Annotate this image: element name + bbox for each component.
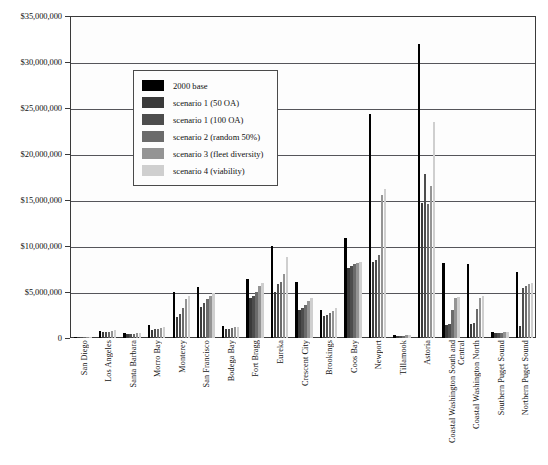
- chart-legend: 2000 basescenario 1 (50 OA)scenario 1 (1…: [133, 70, 278, 186]
- y-tick-mark: [65, 338, 70, 339]
- x-tick-label: Astoria: [423, 340, 432, 365]
- y-tick-label: $20,000,000: [21, 150, 62, 159]
- bar: [335, 308, 337, 338]
- legend-item: scenario 1 (50 OA): [142, 94, 269, 111]
- bar: [212, 293, 214, 338]
- bar-group: [442, 16, 460, 338]
- x-tick-label: San Diego: [80, 340, 89, 375]
- bar: [506, 332, 508, 338]
- legend-swatch: [142, 131, 164, 142]
- bar: [163, 327, 165, 339]
- legend-label: scenario 4 (viability): [173, 166, 245, 176]
- bar: [433, 122, 435, 338]
- x-tick-label: Tillamook: [399, 340, 408, 375]
- legend-swatch: [142, 114, 164, 125]
- x-tick-label: Crescent City: [301, 340, 310, 386]
- y-tick-label: $30,000,000: [21, 58, 62, 67]
- x-tick-label: Eureka: [276, 340, 285, 364]
- bar: [384, 189, 386, 338]
- bar: [237, 327, 239, 338]
- bar: [114, 330, 116, 338]
- bar: [408, 335, 410, 338]
- x-tick-label: Newport: [374, 340, 383, 369]
- bar-group: [393, 16, 411, 338]
- bar-group: [418, 16, 436, 338]
- bar-group: [369, 16, 387, 338]
- bar: [188, 296, 190, 338]
- y-tick-label: $25,000,000: [21, 104, 62, 113]
- legend-label: scenario 2 (random 50%): [173, 132, 260, 142]
- bar-group: [516, 16, 534, 338]
- y-tick-label: $35,000,000: [21, 12, 62, 21]
- x-tick-label: Brookings: [325, 340, 334, 375]
- bar-group: [99, 16, 117, 338]
- bar: [457, 297, 459, 338]
- bar: [139, 333, 141, 338]
- bar-group: [320, 16, 338, 338]
- y-axis: 0$5,000,000$10,000,000$15,000,000$20,000…: [0, 0, 70, 348]
- x-tick-label: Southern Puget Sound: [497, 340, 506, 415]
- legend-label: scenario 3 (fleet diversity): [173, 149, 263, 159]
- bar: [310, 298, 312, 338]
- bar-group: [467, 16, 485, 338]
- x-tick-label: Coastal Washington North: [472, 340, 481, 429]
- bar: [286, 257, 288, 338]
- x-tick-label: San Francisco: [202, 340, 211, 387]
- legend-label: 2000 base: [173, 81, 208, 91]
- bar: [531, 283, 533, 338]
- y-tick-label: $10,000,000: [21, 242, 62, 251]
- legend-swatch: [142, 80, 164, 91]
- x-axis-labels: San DiegoLos AngelesSanta BarbaraMorro B…: [70, 340, 536, 465]
- legend-item: scenario 1 (100 OA): [142, 111, 269, 128]
- bar: [89, 337, 91, 338]
- x-tick-label: Fort Bragg: [251, 340, 260, 377]
- bar-group: [74, 16, 92, 338]
- legend-swatch: [142, 148, 164, 159]
- x-tick-label: Coastal Washington South and Central: [448, 340, 468, 452]
- bar: [261, 283, 263, 338]
- x-tick-label: Los Angeles: [104, 340, 113, 382]
- bar-group: [344, 16, 362, 338]
- x-tick-label: Monterey: [178, 340, 187, 373]
- bar: [482, 296, 484, 338]
- bar-group: [295, 16, 313, 338]
- bar: [359, 262, 361, 338]
- legend-item: scenario 3 (fleet diversity): [142, 145, 269, 162]
- y-tick-label: $5,000,000: [25, 288, 62, 297]
- legend-label: scenario 1 (100 OA): [173, 115, 243, 125]
- legend-swatch: [142, 97, 164, 108]
- x-tick-label: Santa Barbara: [129, 340, 138, 387]
- legend-item: scenario 2 (random 50%): [142, 128, 269, 145]
- x-tick-label: Bodega Bay: [227, 340, 236, 381]
- bar-group: [491, 16, 509, 338]
- y-tick-label: 0: [58, 334, 62, 343]
- bar-chart: 0$5,000,000$10,000,000$15,000,000$20,000…: [0, 0, 548, 465]
- x-tick-label: Northern Puget Sound: [521, 340, 530, 415]
- x-tick-label: Morro Bay: [153, 340, 162, 377]
- y-tick-label: $15,000,000: [21, 196, 62, 205]
- legend-item: 2000 base: [142, 77, 269, 94]
- legend-swatch: [142, 165, 164, 176]
- x-tick-label: Coos Bay: [350, 340, 359, 373]
- legend-item: scenario 4 (viability): [142, 162, 269, 179]
- legend-label: scenario 1 (50 OA): [173, 98, 239, 108]
